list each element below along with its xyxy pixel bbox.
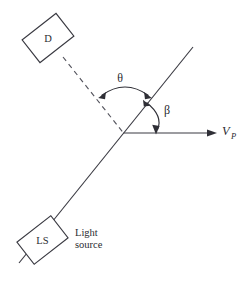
diagram-svg: D LS θ β V P Light source: [0, 0, 245, 281]
theta-arc-arrowhead-right: [144, 92, 152, 99]
theta-angle-label: θ: [117, 71, 123, 85]
velocity-subscript-label: P: [230, 131, 236, 141]
light-source-caption-line2: source: [75, 239, 103, 250]
diagram-canvas: D LS θ β V P Light source: [0, 0, 245, 281]
detector-sight-dashed-line: [63, 57, 124, 133]
velocity-vector-arrowhead: [207, 129, 217, 136]
beta-angle-label: β: [164, 103, 170, 117]
light-source-box-label: LS: [36, 235, 48, 246]
theta-angle-arc: [102, 87, 149, 96]
velocity-symbol-label: V: [222, 124, 231, 138]
light-source-caption-line1: Light: [75, 227, 98, 238]
detector-box-label: D: [44, 33, 52, 44]
theta-arc-arrowhead-left: [98, 92, 106, 99]
